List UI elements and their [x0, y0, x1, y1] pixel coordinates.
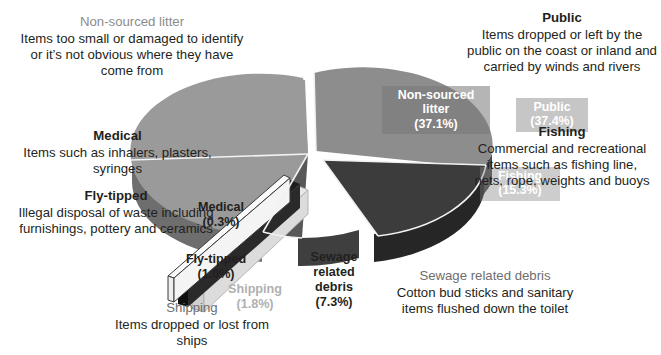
- note-medical-heading: Medical: [10, 128, 225, 144]
- pie-label-nonsourced-line2: litter: [423, 102, 450, 116]
- note-flytipped-heading: Fly-tipped: [2, 188, 230, 204]
- callout-sewage-line2: related: [313, 265, 354, 279]
- note-nonsourced-litter: Non-sourced litter Items too small or da…: [16, 14, 248, 79]
- callout-sewage-percent: (7.3%): [315, 295, 352, 309]
- note-sewage: Sewage related debris Cotton bud sticks …: [392, 268, 578, 317]
- note-public-body: Items dropped or left by the public on t…: [466, 27, 658, 75]
- note-medical-body: Items such as inhalers, plasters, syring…: [10, 145, 225, 177]
- callout-flytipped: Fly-tipped (1.0%): [168, 252, 264, 282]
- note-shipping: Shipping Items dropped or lost from ship…: [112, 300, 272, 349]
- pie-label-nonsourced-line1: Non-sourced: [398, 88, 474, 102]
- note-fishing-body: Commercial and recreational items such a…: [472, 141, 652, 189]
- note-sewage-body: Cotton bud sticks and sanitary items flu…: [392, 285, 578, 317]
- callout-sewage-line1: Sewage: [311, 250, 358, 264]
- callout-sewage: Sewage related debris (7.3%): [300, 250, 368, 310]
- note-public: Public Items dropped or left by the publ…: [466, 10, 658, 75]
- pie-label-public-name: Public: [533, 100, 570, 114]
- note-shipping-heading: Shipping: [112, 300, 272, 316]
- note-fishing-heading: Fishing: [472, 124, 652, 140]
- note-flytipped-body: Illegal disposal of waste including furn…: [2, 205, 230, 237]
- note-nonsourced-heading: Non-sourced litter: [16, 14, 248, 30]
- callout-flytipped-percent: (1.0%): [197, 267, 234, 281]
- note-shipping-body: Items dropped or lost from ships: [112, 317, 272, 349]
- note-public-heading: Public: [466, 10, 658, 26]
- callout-sewage-line3: debris: [315, 280, 353, 294]
- note-flytipped: Fly-tipped Illegal disposal of waste inc…: [2, 188, 230, 237]
- pie-chart-figure: Non-sourced litter (37.1%) Public (37.4%…: [0, 0, 661, 355]
- pie-label-nonsourced-percent: (37.1%): [414, 117, 457, 131]
- callout-shipping-name: Shipping: [228, 282, 282, 296]
- callout-flytipped-name: Fly-tipped: [186, 252, 246, 266]
- note-nonsourced-body: Items too small or damaged to identify o…: [16, 31, 248, 79]
- note-sewage-heading: Sewage related debris: [392, 268, 578, 284]
- note-medical: Medical Items such as inhalers, plasters…: [10, 128, 225, 177]
- note-fishing: Fishing Commercial and recreational item…: [472, 124, 652, 189]
